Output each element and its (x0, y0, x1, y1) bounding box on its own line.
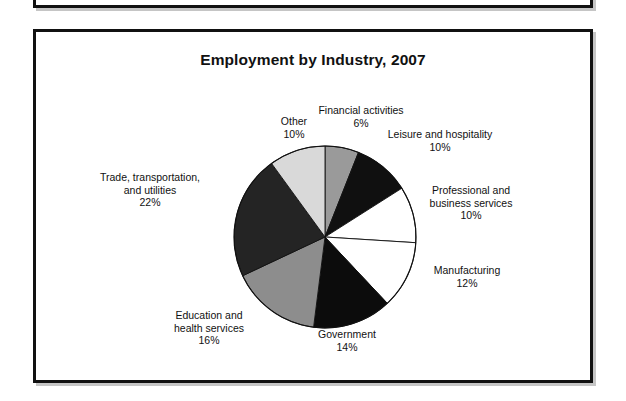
pie-label-professional-and-business-services-name2: business services (401, 197, 541, 210)
pie-label-government-name: Government (318, 328, 376, 340)
pie-label-financial-activities: Financial activities 6% (276, 104, 446, 129)
pie-label-trade-transportation-and-utilities-name2: and utilities (72, 184, 228, 197)
pie-label-leisure-and-hospitality-name: Leisure and hospitality (388, 128, 492, 140)
pie-chart: Other 10% Financial activities 6% Leisur… (36, 32, 596, 386)
pie-label-education-and-health-services: Education and health services 16% (134, 309, 284, 347)
pie-label-professional-and-business-services: Professional and business services 10% (401, 184, 541, 222)
pie-label-professional-and-business-services-name1: Professional and (432, 184, 510, 196)
pie-label-other-value: 10% (254, 128, 334, 141)
previous-figure-frame-remnant (33, 0, 593, 8)
pie-label-education-and-health-services-value: 16% (134, 334, 284, 347)
pie-label-government-value: 14% (282, 341, 412, 354)
pie-label-trade-transportation-and-utilities-value: 22% (72, 196, 228, 209)
pie-slice-group (234, 146, 416, 328)
pie-label-leisure-and-hospitality: Leisure and hospitality 10% (350, 128, 530, 153)
pie-label-education-and-health-services-name1: Education and (175, 309, 242, 321)
pie-label-professional-and-business-services-value: 10% (401, 209, 541, 222)
pie-label-trade-transportation-and-utilities: Trade, transportation, and utilities 22% (72, 171, 228, 209)
pie-label-trade-transportation-and-utilities-name1: Trade, transportation, (100, 171, 200, 183)
pie-label-education-and-health-services-name2: health services (134, 322, 284, 335)
pie-label-manufacturing-value: 12% (402, 277, 532, 290)
figure-frame: Employment by Industry, 2007 Other 10% F… (33, 29, 593, 383)
pie-label-financial-activities-name: Financial activities (318, 104, 403, 116)
pie-label-manufacturing-name: Manufacturing (434, 264, 501, 276)
pie-label-government: Government 14% (282, 328, 412, 353)
pie-label-leisure-and-hospitality-value: 10% (350, 141, 530, 154)
pie-label-manufacturing: Manufacturing 12% (402, 264, 532, 289)
